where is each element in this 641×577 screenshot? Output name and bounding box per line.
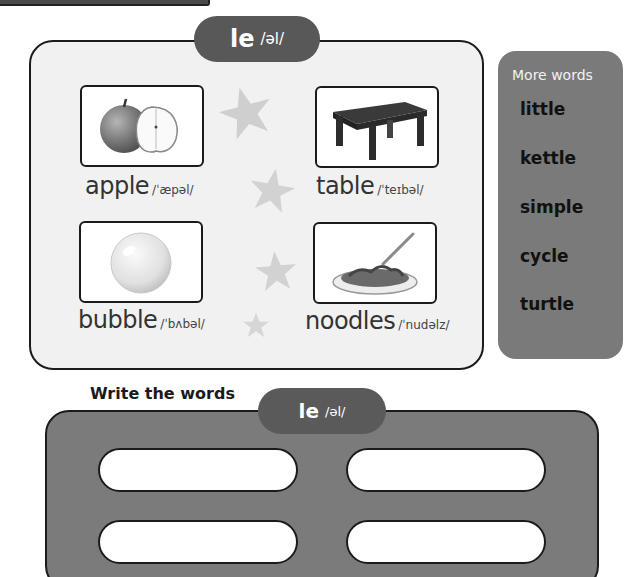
top-decorative-bar [0, 0, 210, 6]
more-words-title: More words [512, 67, 593, 83]
star-icon [248, 166, 296, 214]
word-label: apple [85, 172, 149, 200]
word-caption-bubble: bubble/ˈbʌbəl/ [78, 306, 205, 334]
answer-field-1[interactable] [98, 448, 298, 492]
write-pattern-ipa: /əl/ [325, 404, 345, 419]
answer-field-4[interactable] [346, 520, 546, 564]
apple-icon [82, 87, 204, 167]
word-caption-table: table/ˈteɪbəl/ [316, 172, 424, 200]
word-card-table [315, 86, 439, 168]
more-word-item: cycle [520, 246, 569, 266]
more-words-panel: More words little kettle simple cycle tu… [498, 51, 623, 359]
word-label: bubble [78, 306, 157, 334]
star-icon [242, 311, 270, 339]
word-card-noodles [313, 222, 437, 304]
write-section-title: Write the words [90, 384, 235, 403]
word-card-bubble [79, 221, 203, 303]
bubble-icon [81, 223, 203, 303]
answer-field-2[interactable] [346, 448, 546, 492]
star-icon [254, 249, 298, 293]
word-ipa: /ˈæpəl/ [152, 183, 194, 197]
star-icon [218, 84, 274, 140]
pattern-header-pill: le /əl/ [194, 16, 320, 62]
word-ipa: /ˈbʌbəl/ [160, 317, 204, 331]
write-pattern-label: le [299, 399, 319, 423]
table-icon [317, 88, 439, 168]
noodles-icon [315, 224, 437, 304]
more-word-item: simple [520, 197, 583, 217]
more-word-item: little [520, 99, 565, 119]
more-word-item: kettle [520, 148, 576, 168]
word-ipa: /ˈteɪbəl/ [377, 183, 423, 197]
answer-field-3[interactable] [98, 520, 298, 564]
word-label: table [316, 172, 374, 200]
write-pattern-pill: le /əl/ [258, 388, 386, 434]
word-caption-noodles: noodles/ˈnudəlz/ [305, 307, 449, 335]
write-panel [45, 410, 599, 577]
word-label: noodles [305, 307, 395, 335]
more-word-item: turtle [520, 294, 574, 314]
word-ipa: /ˈnudəlz/ [398, 318, 449, 332]
word-caption-apple: apple/ˈæpəl/ [85, 172, 194, 200]
pattern-label: le [230, 25, 255, 53]
word-card-apple [80, 85, 204, 167]
pattern-ipa: /əl/ [261, 30, 285, 48]
